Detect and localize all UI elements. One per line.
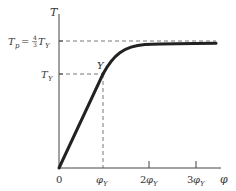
tp-label: T p = 4 3 T Y [8, 34, 51, 50]
svg-text:φ: φ [96, 174, 103, 185]
yield-point-label: Y [97, 60, 105, 71]
x-tick-label-phiy: φ Y [96, 174, 109, 188]
yield-point-marker [102, 73, 105, 76]
x-tick-label-0: 0 [56, 174, 62, 185]
svg-text:φ: φ [193, 174, 200, 185]
ty-label: T Y [41, 69, 54, 83]
svg-text:Y: Y [153, 180, 159, 188]
torque-twist-curve [59, 43, 216, 168]
svg-text:Y: Y [45, 42, 51, 50]
svg-text:Y: Y [103, 180, 109, 188]
torque-twist-chart: T T p = 4 3 T Y T Y Y 0 φ Y 2 φ Y 3 φ Y … [0, 0, 236, 191]
svg-text:4: 4 [33, 34, 37, 41]
svg-text:Y: Y [48, 75, 54, 83]
svg-text:3: 3 [33, 41, 37, 48]
svg-text:p: p [15, 42, 20, 50]
x-tick-label-2phiy: 2 φ Y [140, 174, 159, 188]
x-tick-label-3phiy: 3 φ Y [187, 174, 206, 188]
svg-text:=: = [21, 36, 29, 47]
svg-text:Y: Y [200, 180, 206, 188]
y-axis-label: T [50, 6, 59, 19]
svg-text:φ: φ [146, 174, 153, 185]
x-axis-label: φ [220, 173, 228, 186]
